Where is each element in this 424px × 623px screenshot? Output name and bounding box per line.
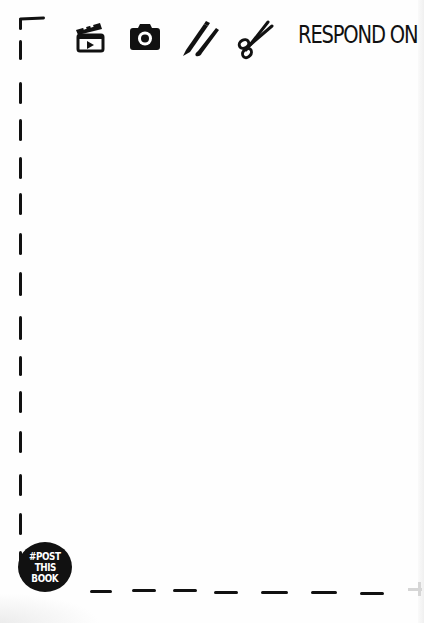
dash bbox=[19, 119, 22, 141]
corner-mark bbox=[418, 582, 421, 596]
dash bbox=[19, 157, 22, 179]
dash bbox=[214, 591, 238, 594]
dash bbox=[19, 391, 22, 413]
dash bbox=[19, 82, 22, 104]
dash bbox=[360, 592, 384, 595]
dash bbox=[261, 591, 288, 594]
dash bbox=[132, 589, 156, 592]
dash bbox=[19, 40, 22, 60]
dash bbox=[19, 474, 22, 496]
dash bbox=[19, 431, 22, 453]
pen-and-brush-icon bbox=[178, 20, 228, 60]
page-edge bbox=[418, 0, 424, 623]
badge-line: BOOK bbox=[32, 573, 59, 584]
dash bbox=[90, 590, 112, 593]
book-page: RESPOND ON #POST THIS BOOK bbox=[0, 0, 424, 623]
dash bbox=[19, 193, 22, 215]
page-title: RESPOND ON bbox=[298, 20, 417, 49]
post-this-book-badge: #POST THIS BOOK bbox=[18, 542, 72, 592]
dash bbox=[19, 356, 22, 376]
film-clapper-icon bbox=[73, 20, 107, 54]
scissors-icon bbox=[236, 20, 276, 60]
dash bbox=[311, 591, 337, 594]
page-shadow bbox=[0, 593, 100, 623]
dash bbox=[173, 589, 197, 592]
dash bbox=[19, 513, 22, 535]
dash bbox=[19, 316, 22, 340]
camera-icon bbox=[126, 20, 164, 54]
frame-corner-top bbox=[19, 16, 45, 20]
dash bbox=[19, 272, 22, 296]
frame-corner-left bbox=[19, 18, 22, 30]
dash bbox=[19, 233, 22, 255]
